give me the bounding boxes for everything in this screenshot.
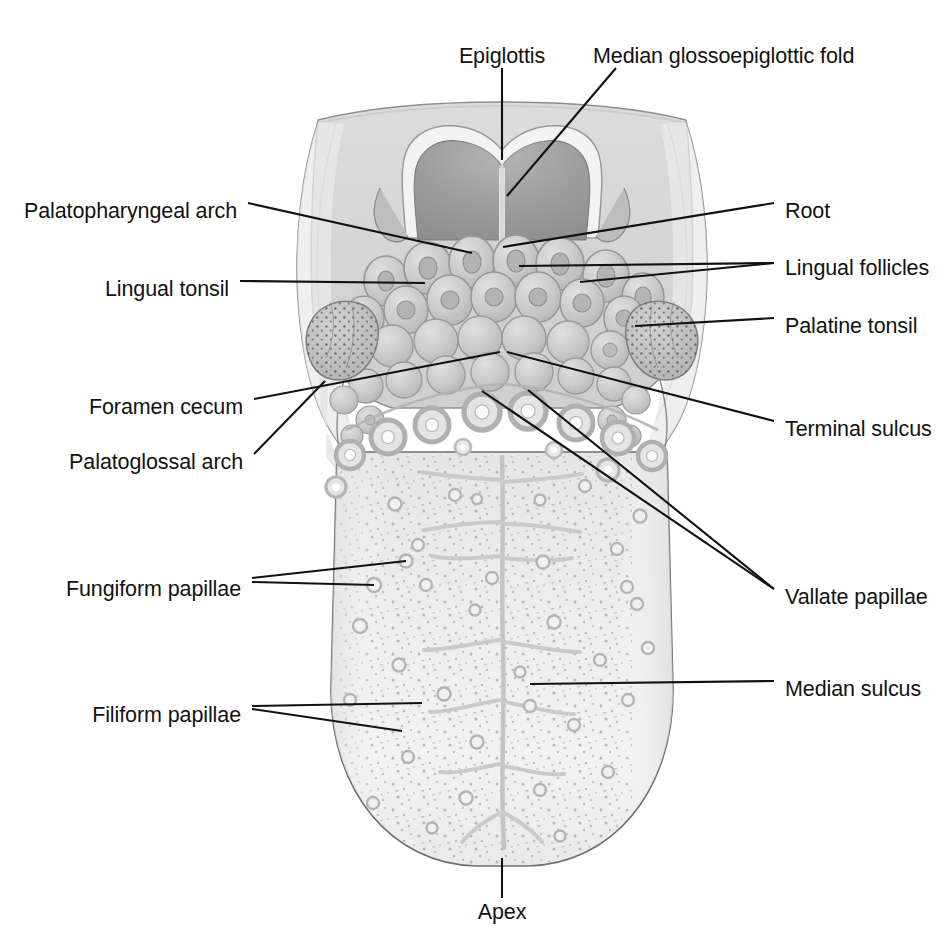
- label-palatine-tonsil: Palatine tonsil: [785, 314, 917, 338]
- label-lingual-tonsil: Lingual tonsil: [105, 277, 229, 301]
- label-vallate-papillae: Vallate papillae: [785, 585, 928, 609]
- label-terminal-sulcus: Terminal sulcus: [785, 417, 932, 441]
- label-foramen-cecum: Foramen cecum: [89, 395, 243, 419]
- label-median-glossoepiglottic-fold: Median glossoepiglottic fold: [593, 44, 854, 68]
- label-fungiform-papillae: Fungiform papillae: [66, 577, 241, 601]
- label-root: Root: [785, 199, 830, 223]
- label-epiglottis: Epiglottis: [459, 44, 545, 68]
- label-filiform-papillae: Filiform papillae: [92, 703, 241, 727]
- label-apex: Apex: [478, 900, 527, 924]
- label-palatoglossal-arch: Palatoglossal arch: [69, 450, 243, 474]
- label-palatopharyngeal-arch: Palatopharyngeal arch: [24, 199, 237, 223]
- label-median-sulcus: Median sulcus: [785, 677, 921, 701]
- label-lingual-follicles: Lingual follicles: [785, 256, 929, 280]
